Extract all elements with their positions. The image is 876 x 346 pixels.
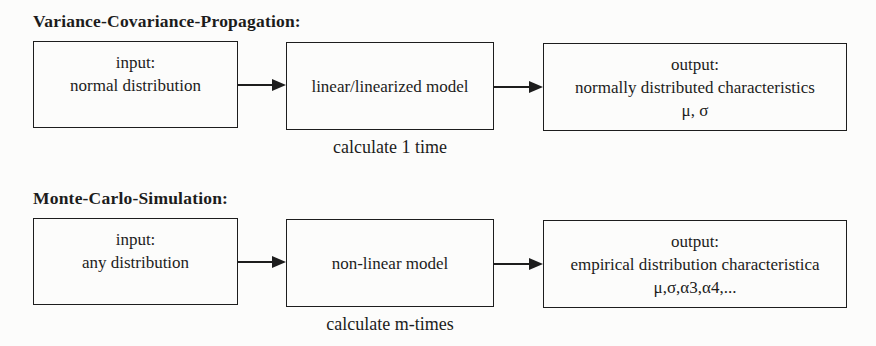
arrow-head-icon [272, 256, 286, 268]
arrow-model-to-output [494, 81, 543, 93]
output-box-label: output: [671, 230, 719, 253]
arrow-input-to-model [238, 256, 286, 268]
model-box-label: non-linear model [332, 252, 449, 275]
input-box-value: any distribution [82, 251, 189, 274]
arrow-head-icon [272, 79, 286, 91]
arrow-head-icon [529, 258, 543, 270]
arrow-line [494, 263, 529, 265]
arrow-model-to-output [494, 258, 543, 270]
diagram-canvas: Variance-Covariance-Propagation: input: … [0, 0, 876, 346]
input-box-value: normal distribution [70, 74, 201, 97]
row-title-variance-covariance: Variance-Covariance-Propagation: [33, 10, 301, 32]
flow-monte-carlo-simulation: Monte-Carlo-Simulation: input: any distr… [0, 187, 876, 346]
model-box: non-linear model [286, 219, 494, 307]
input-box-label: input: [116, 51, 156, 74]
model-caption: calculate m-times [286, 312, 494, 336]
model-box-label: linear/linearized model [311, 75, 468, 98]
output-box-value: empirical distribution characteristica [570, 253, 819, 276]
flow-variance-covariance-propagation: Variance-Covariance-Propagation: input: … [0, 10, 876, 175]
arrow-head-icon [529, 81, 543, 93]
output-box: output: empirical distribution character… [543, 220, 847, 308]
input-box: input: any distribution [33, 218, 238, 305]
output-box: output: normally distributed characteris… [543, 43, 847, 131]
model-box: linear/linearized model [286, 42, 494, 130]
output-box-value: normally distributed characteristics [575, 76, 815, 99]
output-box-symbols: μ,σ,α3,α4,... [654, 276, 737, 299]
model-caption: calculate 1 time [286, 135, 494, 159]
output-box-symbols: μ, σ [682, 99, 709, 122]
row-title-monte-carlo: Monte-Carlo-Simulation: [33, 187, 228, 209]
input-box: input: normal distribution [33, 41, 238, 128]
output-box-label: output: [671, 53, 719, 76]
arrow-line [238, 84, 272, 86]
arrow-line [238, 261, 272, 263]
arrow-input-to-model [238, 79, 286, 91]
input-box-label: input: [116, 228, 156, 251]
arrow-line [494, 86, 529, 88]
